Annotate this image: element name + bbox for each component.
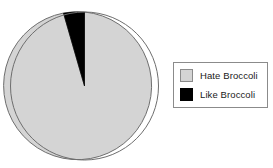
legend-item-like-broccoli[interactable]: Like Broccoli [180, 85, 267, 104]
legend-label-like-broccoli: Like Broccoli [200, 90, 255, 100]
legend-swatch-gray-icon [180, 69, 193, 82]
pie-plot-area [0, 0, 170, 168]
legend-swatch-black-icon [180, 88, 193, 101]
legend-label-hate-broccoli: Hate Broccoli [200, 71, 258, 81]
pie-svg [0, 0, 170, 168]
legend-item-hate-broccoli[interactable]: Hate Broccoli [180, 66, 267, 85]
pie-chart: Hate Broccoli Like Broccoli [0, 0, 273, 168]
chart-legend: Hate Broccoli Like Broccoli [173, 62, 268, 108]
